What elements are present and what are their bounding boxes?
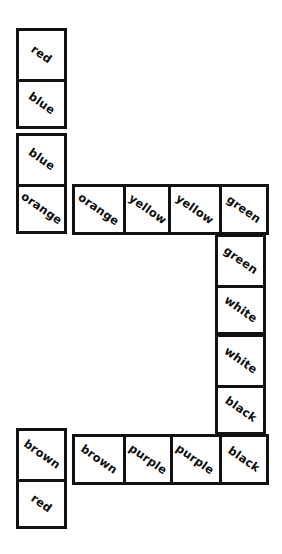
domino-tile[interactable]: purpleblack: [168, 434, 269, 485]
domino-half-label: yellow: [174, 192, 216, 226]
domino-tile[interactable]: blueorange: [16, 133, 67, 234]
domino-tile[interactable]: brownred: [16, 428, 67, 529]
domino-half: purple: [123, 437, 171, 482]
domino-half-label: white: [222, 294, 259, 325]
domino-half-label: purple: [174, 442, 216, 476]
domino-half-label: red: [29, 493, 54, 515]
domino-half: brown: [19, 431, 64, 479]
domino-half-label: brown: [21, 438, 62, 471]
domino-half: green: [219, 187, 267, 232]
domino-half-label: blue: [26, 91, 56, 117]
domino-half-label: purple: [127, 442, 169, 476]
domino-half: purple: [171, 437, 219, 482]
domino-half: brown: [75, 437, 123, 482]
domino-half: white: [218, 337, 263, 385]
domino-half-label: orange: [76, 191, 121, 227]
domino-half-label: green: [221, 245, 259, 277]
domino-tile[interactable]: greenwhite: [215, 234, 266, 335]
domino-half: red: [19, 479, 64, 527]
domino-half-label: green: [225, 194, 263, 226]
domino-tile[interactable]: yellowgreen: [168, 184, 269, 235]
domino-board: redblueblueorangeorangeyellowyellowgreen…: [0, 0, 282, 554]
domino-half-label: black: [223, 395, 259, 425]
domino-half-label: yellow: [127, 192, 169, 226]
domino-half-label: orange: [19, 191, 64, 227]
domino-half: black: [219, 437, 267, 482]
domino-half: red: [19, 31, 64, 79]
domino-half-label: black: [226, 445, 262, 475]
domino-tile[interactable]: whiteblack: [215, 334, 266, 435]
domino-half: white: [218, 285, 263, 333]
domino-half: yellow: [123, 187, 171, 232]
domino-half: black: [218, 385, 263, 433]
domino-half: orange: [19, 184, 64, 232]
domino-tile[interactable]: brownpurple: [72, 434, 173, 485]
domino-tile[interactable]: redblue: [16, 28, 67, 129]
domino-tile[interactable]: orangeyellow: [72, 184, 173, 235]
domino-half: orange: [75, 187, 123, 232]
domino-half: green: [218, 237, 263, 285]
domino-half: yellow: [171, 187, 219, 232]
domino-half-label: white: [222, 345, 259, 376]
domino-half-label: brown: [78, 443, 119, 476]
domino-half: blue: [19, 79, 64, 127]
domino-half-label: red: [29, 44, 54, 66]
domino-half-label: blue: [26, 147, 56, 173]
domino-half: blue: [19, 136, 64, 184]
